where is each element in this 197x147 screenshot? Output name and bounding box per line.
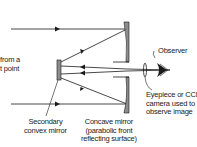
observer-label: Observer (158, 47, 187, 56)
primary-label-line-3: reflecting surface) (81, 135, 137, 144)
primary-mirror-label: Concave mirror (parabolic front reflecti… (81, 118, 137, 144)
light-source-label: from a t point (0, 56, 20, 73)
leader-lines (46, 51, 155, 116)
secondary-label-line-2: convex mirror (24, 127, 67, 136)
light-source-line-2: t point (0, 65, 20, 74)
reflected-ray-arrows (80, 49, 85, 91)
eyepiece-lens (144, 63, 147, 77)
focuser-tube (113, 62, 129, 77)
secondary-mirror (57, 60, 61, 80)
primary-mirror-lower (124, 77, 129, 113)
primary-mirror-upper (124, 22, 129, 62)
eyepiece-label-line-3: observe image (146, 108, 197, 117)
eyepiece-label: Eyepiece or CCD camera used to observe i… (146, 91, 197, 117)
secondary-mirror-label: Secondary convex mirror (24, 118, 67, 135)
